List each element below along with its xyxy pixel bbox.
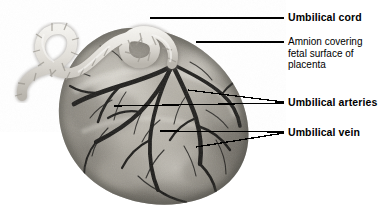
anatomy-figure: Umbilical cord Amnion covering fetal sur… [0,0,380,214]
label-amnion: Amnion covering fetal surface of placent… [288,36,362,71]
label-umbilical-vein: Umbilical vein [288,127,360,139]
label-umbilical-cord: Umbilical cord [288,12,362,24]
label-umbilical-arteries: Umbilical arteries [288,97,377,109]
